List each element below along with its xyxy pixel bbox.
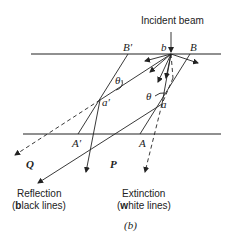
extinction-white-ray — [145, 104, 162, 172]
label-A: A — [138, 137, 146, 149]
label-theta-left: θ — [115, 74, 121, 86]
label-a: a — [161, 98, 167, 110]
fan-dashed — [171, 54, 173, 78]
fan-arrow-right — [171, 54, 198, 63]
plane-Bprime-Aprime — [78, 54, 128, 134]
extinction-sublabel: (white lines) — [117, 200, 171, 211]
borrmann-diagram: Incident beam B′ b B θ θ a′ a A′ A Q P R… — [0, 0, 233, 240]
label-A-prime: A′ — [71, 137, 82, 149]
reflection-sublabel: (black lines) — [12, 200, 66, 211]
reflection-label: Reflection — [17, 188, 61, 199]
label-B: B — [190, 41, 197, 53]
label-B-prime: B′ — [123, 41, 133, 53]
extinction-label: Extinction — [122, 188, 165, 199]
figure-caption: (b) — [124, 219, 137, 232]
label-P: P — [110, 158, 117, 170]
label-a-prime: a′ — [102, 96, 111, 108]
label-theta-right: θ — [146, 90, 152, 102]
reflected-ray-dashed — [15, 100, 100, 155]
ray-b-to-a — [162, 54, 171, 104]
incident-beam-label: Incident beam — [141, 15, 204, 26]
label-b: b — [161, 41, 167, 53]
label-Q: Q — [26, 158, 34, 170]
